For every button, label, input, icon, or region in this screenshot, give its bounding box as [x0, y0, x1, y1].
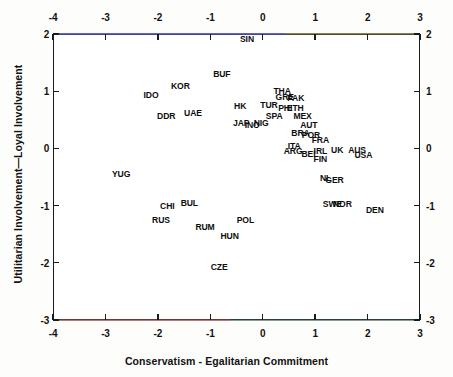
data-point-label: BUF: [213, 69, 230, 79]
x-tick-label-bottom: -3: [101, 328, 110, 339]
data-point-label: UAE: [184, 108, 202, 118]
x-tick-label-bottom: -1: [206, 328, 215, 339]
y-tick-left: [53, 262, 59, 263]
x-tick-label-top: 3: [417, 12, 422, 23]
data-point-label: USA: [354, 150, 372, 160]
y-tick-left: [53, 148, 59, 149]
y-tick-right: [414, 33, 420, 34]
data-point-label: RUM: [195, 222, 214, 232]
y-tick-label-right: 2: [426, 29, 444, 40]
x-tick-label-top: -4: [49, 12, 58, 23]
y-tick-left: [53, 91, 59, 92]
data-point-label: FRA: [312, 135, 329, 145]
data-point-label: POL: [237, 215, 254, 225]
x-tick-bottom: [367, 314, 368, 320]
data-point-label: KOR: [171, 81, 190, 91]
x-tick-label-bottom: 1: [312, 328, 317, 339]
y-tick-left: [53, 319, 59, 320]
data-point-label: ARG: [284, 146, 303, 156]
data-point-label: HUN: [221, 231, 239, 241]
x-tick-top: [210, 34, 211, 40]
x-tick-top: [157, 34, 158, 40]
y-axis-title: Utilitarian Involvement—Loyal Involvemen…: [12, 24, 24, 324]
x-tick-label-bottom: 2: [365, 328, 370, 339]
y-tick-label-left: 2: [31, 29, 49, 40]
y-tick-label-right: 1: [426, 86, 444, 97]
data-point-label: YUG: [112, 169, 130, 179]
x-tick-top: [314, 34, 315, 40]
y-tick-label-right: 0: [426, 143, 444, 154]
data-point-label: SIN: [240, 34, 254, 44]
data-point-label: BUL: [181, 198, 198, 208]
y-tick-right: [414, 262, 420, 263]
data-point-label: CHI: [160, 201, 175, 211]
data-point-label: IDO: [144, 90, 159, 100]
data-point-label: PAK: [287, 93, 304, 103]
y-tick-label-left: -2: [31, 257, 49, 268]
y-tick-right: [414, 205, 420, 206]
x-tick-label-top: -2: [154, 12, 163, 23]
x-tick-top: [105, 34, 106, 40]
data-point-label: CZE: [211, 262, 228, 272]
data-point-label: RUS: [152, 215, 170, 225]
x-tick-label-bottom: -2: [154, 328, 163, 339]
x-tick-label-bottom: 3: [417, 328, 422, 339]
x-tick-label-top: -3: [101, 12, 110, 23]
y-tick-right: [414, 148, 420, 149]
y-tick-label-left: -3: [31, 315, 49, 326]
x-tick-top: [262, 34, 263, 40]
data-point-label: HK: [234, 101, 246, 111]
data-point-label: FIN: [314, 154, 328, 164]
y-tick-label-right: -1: [426, 200, 444, 211]
data-point-label: TUR: [260, 100, 277, 110]
x-tick-label-top: 1: [312, 12, 317, 23]
y-tick-label-left: -1: [31, 200, 49, 211]
x-tick-label-top: 0: [260, 12, 265, 23]
data-point-label: DEN: [366, 205, 384, 215]
x-tick-label-bottom: -4: [49, 328, 58, 339]
plot-area: [53, 34, 420, 320]
x-tick-label-bottom: 0: [260, 328, 265, 339]
y-tick-right: [414, 91, 420, 92]
x-tick-bottom: [105, 314, 106, 320]
y-tick-label-right: -3: [426, 315, 444, 326]
x-tick-bottom: [262, 314, 263, 320]
x-tick-top: [419, 34, 420, 40]
y-tick-left: [53, 33, 59, 34]
x-tick-bottom: [314, 314, 315, 320]
x-axis-title: Conservatism - Egalitarian Commitment: [0, 355, 453, 367]
x-tick-top: [52, 34, 53, 40]
x-tick-top: [367, 34, 368, 40]
y-tick-right: [414, 319, 420, 320]
x-tick-label-top: -1: [206, 12, 215, 23]
data-point-label: UK: [331, 145, 343, 155]
y-tick-label-left: 0: [31, 143, 49, 154]
scatter-plot-figure: -4-4-3-3-2-2-1-100112233-3-3-2-2-1-10011…: [0, 0, 453, 377]
x-tick-bottom: [157, 314, 158, 320]
y-tick-label-right: -2: [426, 257, 444, 268]
x-tick-label-top: 2: [365, 12, 370, 23]
x-tick-bottom: [210, 314, 211, 320]
data-point-label: NOR: [333, 199, 352, 209]
y-tick-left: [53, 205, 59, 206]
data-point-label: NIG: [254, 118, 269, 128]
data-point-label: DDR: [157, 111, 175, 121]
y-tick-label-left: 1: [31, 86, 49, 97]
data-point-label: GER: [325, 175, 343, 185]
